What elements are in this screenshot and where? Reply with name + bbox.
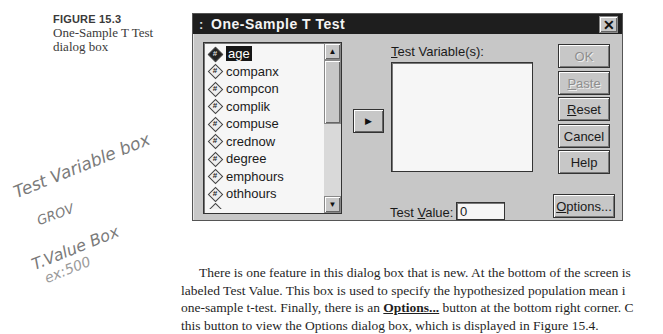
list-item[interactable]: # compcon bbox=[206, 80, 324, 98]
list-item-partial bbox=[206, 203, 324, 209]
numeric-variable-icon: # bbox=[208, 187, 222, 201]
ok-button[interactable]: OK bbox=[558, 44, 610, 68]
numeric-variable-icon: # bbox=[208, 117, 222, 131]
vertical-scrollbar[interactable]: ▲ ▼ bbox=[324, 43, 341, 213]
list-item-label: degree bbox=[226, 151, 266, 166]
handwritten-note: GROV bbox=[35, 201, 76, 228]
close-icon: ✕ bbox=[603, 18, 615, 32]
arrow-down-icon: ▼ bbox=[329, 200, 337, 209]
numeric-variable-icon: # bbox=[208, 169, 222, 183]
help-button[interactable]: Help bbox=[558, 150, 610, 174]
move-to-test-variables-button[interactable]: ▶ bbox=[353, 109, 384, 133]
test-value-input[interactable] bbox=[456, 202, 505, 220]
scroll-up-button[interactable]: ▲ bbox=[324, 43, 341, 60]
list-item-label: crednow bbox=[226, 134, 275, 149]
system-menu-icon[interactable]: : bbox=[199, 17, 209, 32]
numeric-variable-icon: # bbox=[208, 47, 222, 61]
numeric-variable-icon: # bbox=[208, 152, 222, 166]
source-variable-list[interactable]: # age # companx # compcon # complik # co… bbox=[203, 42, 342, 214]
test-value-label: Test Value: bbox=[390, 205, 453, 220]
paste-button[interactable]: Paste bbox=[558, 71, 610, 95]
body-line: this button to view the Options dialog b… bbox=[181, 317, 663, 334]
test-variables-label: Test Variable(s): bbox=[391, 44, 484, 59]
close-button[interactable]: ✕ bbox=[599, 16, 618, 33]
body-line: one-sample t-test. Finally, there is an … bbox=[181, 299, 663, 317]
arrow-up-icon: ▲ bbox=[329, 47, 337, 56]
cancel-button[interactable]: Cancel bbox=[558, 124, 610, 148]
handwritten-note: Test Variable box bbox=[11, 129, 153, 202]
scroll-thumb[interactable] bbox=[324, 60, 341, 124]
list-item-label: compuse bbox=[226, 116, 279, 131]
arrow-right-icon: ▶ bbox=[365, 116, 372, 126]
reset-button[interactable]: Reset bbox=[558, 97, 610, 121]
list-item-label: age bbox=[226, 46, 252, 61]
list-item[interactable]: # emphours bbox=[206, 168, 324, 186]
options-button[interactable]: Options... bbox=[553, 194, 615, 218]
list-item-label: complik bbox=[226, 99, 270, 114]
one-sample-t-test-dialog: : One-Sample T Test ✕ # age # companx # … bbox=[192, 13, 623, 221]
list-item-label: othhours bbox=[226, 186, 277, 201]
dialog-title: One-Sample T Test bbox=[211, 16, 345, 32]
list-item-label: companx bbox=[226, 64, 279, 79]
list-item[interactable]: # othhours bbox=[206, 185, 324, 203]
body-paragraph: There is one feature in this dialog box … bbox=[181, 264, 663, 334]
test-variables-list[interactable] bbox=[391, 62, 533, 172]
list-item-label: emphours bbox=[226, 169, 284, 184]
title-bar[interactable]: : One-Sample T Test ✕ bbox=[193, 14, 622, 34]
figure-title-line2: dialog box bbox=[53, 40, 183, 54]
figure-label: FIGURE 15.3 bbox=[53, 12, 183, 26]
list-item[interactable]: # crednow bbox=[206, 133, 324, 151]
list-item-label: compcon bbox=[226, 81, 279, 96]
body-line: labeled Test Value. This box is used to … bbox=[181, 282, 663, 300]
numeric-variable-icon: # bbox=[208, 99, 222, 113]
list-item[interactable]: # degree bbox=[206, 150, 324, 168]
figure-title-line1: One-Sample T Test bbox=[53, 26, 183, 40]
body-line: There is one feature in this dialog box … bbox=[181, 264, 663, 282]
numeric-variable-icon: # bbox=[208, 82, 222, 96]
numeric-variable-icon: # bbox=[208, 134, 222, 148]
list-item[interactable]: # age bbox=[206, 45, 324, 63]
list-item[interactable]: # compuse bbox=[206, 115, 324, 133]
numeric-variable-icon: # bbox=[208, 64, 222, 78]
scroll-down-button[interactable]: ▼ bbox=[324, 196, 341, 213]
list-item[interactable]: # companx bbox=[206, 63, 324, 81]
figure-caption: FIGURE 15.3 One-Sample T Test dialog box bbox=[53, 12, 183, 54]
list-item[interactable]: # complik bbox=[206, 98, 324, 116]
